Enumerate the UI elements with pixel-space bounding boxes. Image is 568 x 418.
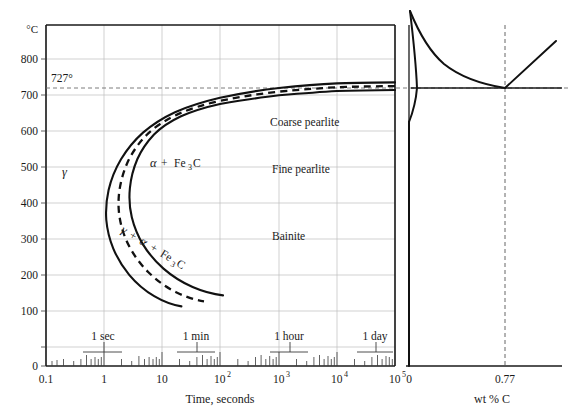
x-tick-10e4-base: 10 xyxy=(331,373,343,385)
y-tick-0: 0 xyxy=(32,360,38,372)
y-tick-600: 600 xyxy=(21,125,39,137)
alpha-glyph: α xyxy=(150,156,157,170)
time-marker-1-min: 1 min xyxy=(177,330,215,352)
y-tick-300: 300 xyxy=(21,233,39,245)
subscript-3-glyph: 3 xyxy=(188,163,192,172)
time-marker-1-sec-label: 1 sec xyxy=(91,330,114,342)
acm-phase-boundary xyxy=(505,41,556,88)
plus-glyph-2: + xyxy=(148,241,160,255)
time-marker-1-hour: 1 hour xyxy=(270,330,308,352)
phase-diagram-x-tick-0: 0 xyxy=(406,373,412,385)
eutectoid-temperature-label: 727° xyxy=(51,72,73,84)
c-glyph-2: C xyxy=(175,257,188,271)
c-glyph: C xyxy=(193,157,201,169)
time-marker-1-min-label: 1 min xyxy=(183,330,210,342)
x-tick-10: 10 xyxy=(156,373,168,385)
region-label-ferrite-cementite: α + Fe 3 C xyxy=(150,156,201,172)
x-tick-10e3-base: 10 xyxy=(273,373,285,385)
phase-diagram-x-axis-title: wt % C xyxy=(474,392,510,406)
alpha-ferrite-phase-field xyxy=(409,11,417,122)
time-marker-1-day: 1 day xyxy=(357,330,393,352)
ttt-x-axis-title: Time, seconds xyxy=(186,392,255,406)
time-marker-1-sec: 1 sec xyxy=(83,330,122,352)
y-tick-700: 700 xyxy=(21,89,39,101)
ttt-plot-frame xyxy=(46,25,395,366)
plus-glyph: + xyxy=(161,157,168,169)
region-label-austenite-ferrite-cementite: γ + α + Fe 3 C xyxy=(117,223,188,274)
x-tick-10e5: 10 5 xyxy=(389,370,406,385)
phase-diagram-panel: 0 0.77 wt % C xyxy=(406,11,562,406)
x-tick-10e3-exp: 3 xyxy=(286,370,290,379)
region-label-fine-pearlite: Fine pearlite xyxy=(272,163,330,176)
region-label-coarse-pearlite: Coarse pearlite xyxy=(270,116,339,129)
x-tick-10e5-base: 10 xyxy=(389,373,401,385)
region-label-bainite: Bainite xyxy=(272,230,305,242)
y-tick-500: 500 xyxy=(21,161,39,173)
x-tick-10e4: 10 4 xyxy=(331,370,348,385)
x-tick-0-1: 0.1 xyxy=(39,373,54,385)
fifty-percent-curve xyxy=(119,86,395,301)
x-tick-10e3: 10 3 xyxy=(273,370,290,385)
x-tick-1: 1 xyxy=(101,373,107,385)
ttt-phase-diagram-figure: °C 800 700 600 500 400 300 200 100 0 727… xyxy=(0,0,568,418)
x-tick-10e2: 10 2 xyxy=(214,370,231,385)
x-tick-10e4-exp: 4 xyxy=(344,370,348,379)
y-tick-800: 800 xyxy=(21,53,39,65)
ttt-diagram-panel: °C 800 700 600 500 400 300 200 100 0 727… xyxy=(0,0,568,418)
y-tick-200: 200 xyxy=(21,269,39,281)
time-marker-1-hour-label: 1 hour xyxy=(274,330,304,342)
y-axis-unit-label: °C xyxy=(26,23,38,35)
phase-diagram-x-tick-0-77: 0.77 xyxy=(495,373,515,385)
y-tick-400: 400 xyxy=(21,197,39,209)
ttt-vertical-gridlines xyxy=(46,25,395,366)
x-tick-10e2-exp: 2 xyxy=(227,370,231,379)
ttt-horizontal-gridlines xyxy=(46,59,395,347)
y-tick-100: 100 xyxy=(21,305,39,317)
x-tick-10e2-base: 10 xyxy=(214,373,226,385)
a3-phase-boundary xyxy=(410,11,505,88)
fe-glyph: Fe xyxy=(174,157,186,169)
time-marker-1-day-label: 1 day xyxy=(362,330,387,343)
ttt-x-axis-minor-ticks xyxy=(52,352,392,366)
